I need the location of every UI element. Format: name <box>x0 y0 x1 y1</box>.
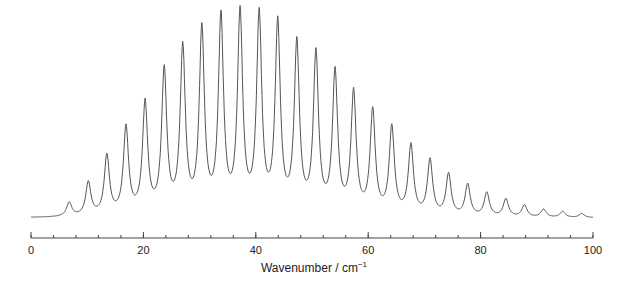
spectrum-line <box>31 6 593 218</box>
x-tick-label: 80 <box>474 244 486 256</box>
x-axis-label: Wavenumber / cm−1 <box>0 260 628 275</box>
x-tick-label: 20 <box>137 244 149 256</box>
x-tick-label: 0 <box>28 244 34 256</box>
x-tick-label: 40 <box>250 244 262 256</box>
x-axis-ticks: 020406080100 <box>28 232 602 256</box>
spectrum-chart: 020406080100 <box>0 0 628 286</box>
x-tick-label: 60 <box>362 244 374 256</box>
x-tick-label: 100 <box>584 244 602 256</box>
